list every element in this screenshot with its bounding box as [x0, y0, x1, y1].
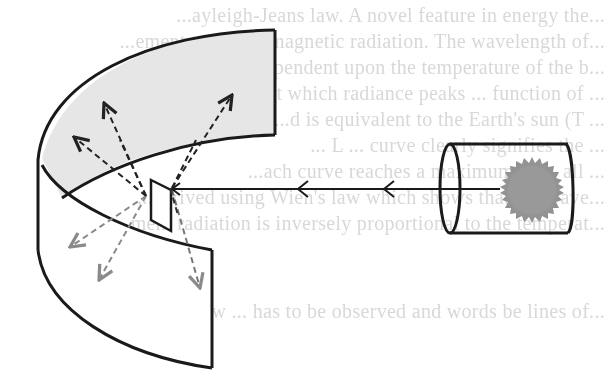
sun-icon: [500, 157, 564, 223]
target-plate: [151, 180, 171, 231]
scattering-diagram: [0, 0, 605, 372]
screen-upper-band: [38, 30, 275, 200]
